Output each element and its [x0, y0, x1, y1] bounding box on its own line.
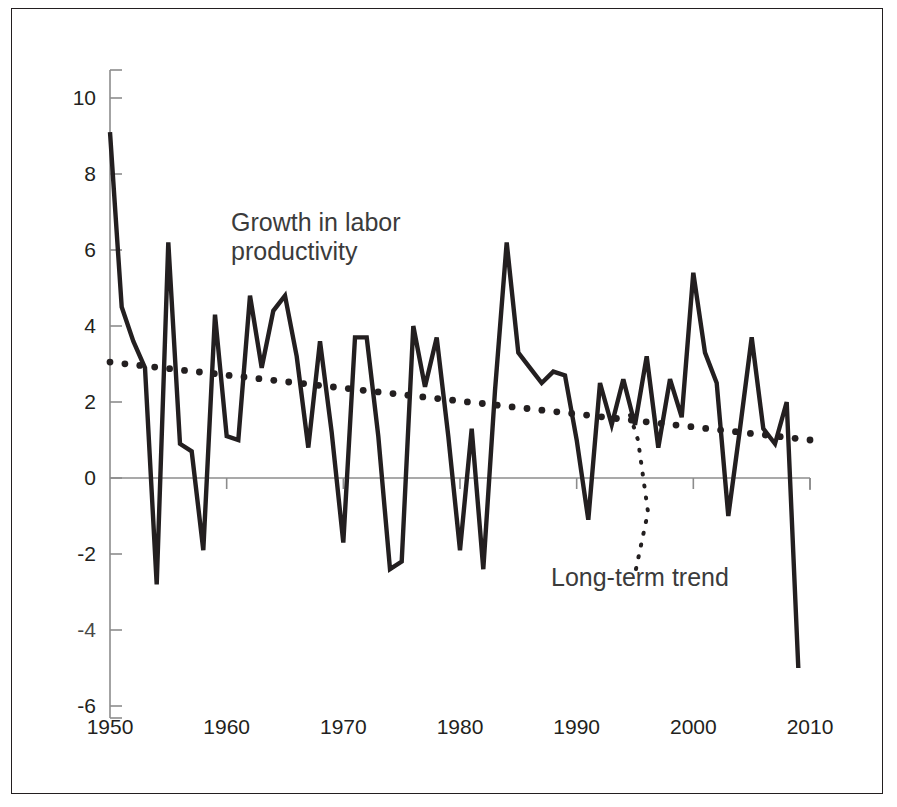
trend-dot: [419, 394, 426, 401]
trend-dot: [673, 422, 680, 429]
trend-dot: [732, 428, 739, 435]
trend-dot: [762, 432, 769, 439]
y-axis-tick-label: -4: [77, 618, 96, 642]
chart-page: -6-4-20246810 19501960197019801990200020…: [0, 0, 897, 807]
x-axis-tick-label: 2000: [670, 715, 717, 739]
series-annotation-label: Growth in labor productivity: [231, 208, 401, 266]
trend-dot: [449, 397, 456, 404]
trend-dot: [509, 404, 516, 411]
trend-dot: [375, 389, 382, 396]
trend-dot: [405, 392, 412, 399]
trend-dot: [345, 385, 352, 392]
y-axis-tick-label: 4: [84, 314, 96, 338]
trend-dot: [792, 435, 799, 442]
trend-dot: [583, 412, 590, 419]
x-axis-tick-label: 1970: [320, 715, 367, 739]
x-axis-tick-label: 1990: [553, 715, 600, 739]
x-axis-tick-label: 1980: [437, 715, 484, 739]
trend-dot: [166, 365, 173, 372]
trend-dot: [747, 430, 754, 437]
trend-dot: [270, 377, 277, 384]
trend-dot: [598, 413, 605, 420]
x-axis-ticks: [227, 478, 810, 489]
y-axis-tick-label: 0: [84, 466, 96, 490]
trend-dot: [494, 402, 501, 409]
y-axis-tick-label: -2: [77, 542, 96, 566]
trend-dot: [256, 375, 263, 382]
chart-plot-area: [0, 0, 897, 807]
y-axis-tick-label: 10: [73, 86, 96, 110]
trend-dot: [688, 423, 695, 430]
trend-dot: [807, 437, 814, 444]
trend-dot: [613, 415, 620, 422]
trend-dot: [643, 418, 650, 425]
trend-annotation-label: Long-term trend: [551, 563, 729, 592]
y-axis-tick-label: 6: [84, 238, 96, 262]
trend-dot: [479, 400, 486, 407]
trend-dot: [300, 380, 307, 387]
trend-label-leader-line: [629, 412, 648, 569]
trend-dot: [658, 420, 665, 427]
trend-dot: [434, 395, 441, 402]
trend-dot: [226, 372, 233, 379]
trend-dot: [315, 382, 322, 389]
trend-dot: [717, 427, 724, 434]
trend-dot: [181, 367, 188, 374]
trend-dot: [702, 425, 709, 432]
trend-dot: [211, 370, 218, 377]
trend-dot: [464, 399, 471, 406]
trend-dot: [777, 433, 784, 440]
trend-dot: [151, 364, 158, 371]
trend-dot: [107, 359, 114, 366]
trend-dot: [360, 387, 367, 394]
y-axis-tick-label: 8: [84, 162, 96, 186]
axis-lines: [110, 70, 810, 718]
trend-dot: [390, 390, 397, 397]
trend-dot: [122, 360, 129, 367]
trend-dot: [568, 410, 575, 417]
trend-dot: [553, 408, 560, 415]
y-axis-tick-label: 2: [84, 390, 96, 414]
x-axis-tick-label: 1960: [203, 715, 250, 739]
x-axis-tick-label: 1950: [87, 715, 134, 739]
trend-dot: [196, 369, 203, 376]
trend-dot: [285, 379, 292, 386]
trend-dot: [136, 362, 143, 369]
trend-dot: [524, 405, 531, 412]
trend-dot: [241, 374, 248, 381]
x-axis-tick-label: 2010: [787, 715, 834, 739]
trend-dot: [539, 407, 546, 414]
trend-dot: [330, 384, 337, 391]
